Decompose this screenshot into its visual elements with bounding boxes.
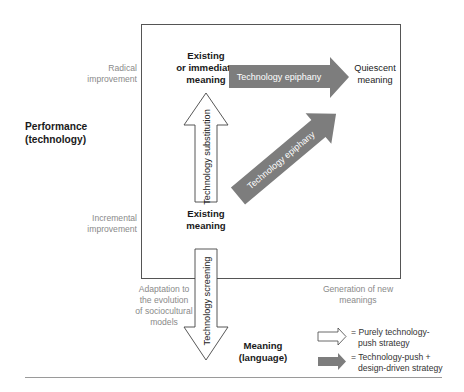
y-label-incremental-line2: improvement [87, 224, 137, 234]
node-existing-line1: Existing [187, 208, 224, 219]
arrow-down-label: Technology screening [202, 257, 212, 346]
legend-gray-line1: = Technology-push + [351, 352, 431, 362]
node-quiescent-line1: Quiescent [354, 63, 396, 73]
x-axis-title-line1: Meaning [244, 340, 283, 351]
legend: = Purely technology- push strategy = Tec… [318, 327, 443, 373]
node-existing-immediate-line2: or immediate [176, 62, 236, 73]
legend-gray-line2: design-driven strategy [358, 363, 443, 373]
arrow-horizontal-epiphany: Technology epiphany [229, 57, 349, 98]
arrow-horizontal-label: Technology epiphany [237, 72, 322, 82]
legend-white-line1: = Purely technology- [351, 327, 430, 337]
arrow-up-label: Technology substitution [202, 109, 212, 205]
node-existing-immediate-line1: Existing [187, 50, 224, 61]
y-label-incremental-line1: Incremental [92, 213, 137, 223]
arrow-diagonal-epiphany: Technology epiphany [225, 98, 349, 211]
node-existing-line2: meaning [186, 220, 226, 231]
x-label-generation-line1: Generation of new [323, 284, 394, 294]
x-label-adaptation-line4: models [150, 317, 178, 327]
y-label-radical-line1: Radical [108, 63, 137, 73]
x-label-adaptation-line3: of sociocultural [135, 306, 192, 316]
y-axis-title-line1: Performance [25, 121, 88, 132]
legend-white-arrow-icon [318, 328, 346, 345]
arrow-down-screening: Technology screening [184, 249, 228, 360]
x-axis-title-line2: (language) [239, 352, 288, 363]
arrow-up-substitution: Technology substitution [184, 93, 228, 205]
legend-gray-arrow-icon [318, 353, 346, 370]
x-label-generation-line2: meanings [339, 295, 376, 305]
node-existing-immediate-line3: meaning [186, 74, 226, 85]
node-quiescent-line2: meaning [357, 75, 392, 85]
legend-white-line2: push strategy [358, 338, 410, 348]
x-label-adaptation-line1: Adaptation to [139, 284, 190, 294]
x-label-adaptation-line2: the evolution [140, 295, 189, 305]
arrow-diagonal-label: Technology epiphany [245, 129, 317, 191]
y-label-radical-line2: improvement [87, 74, 137, 84]
y-axis-title-line2: (technology) [25, 134, 86, 145]
diagram-canvas: Performance (technology) Radical improve… [0, 0, 464, 392]
